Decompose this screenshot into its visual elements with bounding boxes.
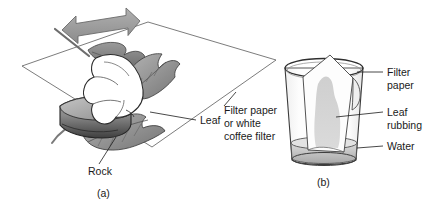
panel-a: Leaf Rock Filter paper or white coffee f… [22,8,278,199]
label-filter-paper-line1: Filter paper [224,104,278,116]
panel-b: Filter paper Leaf rubbing Water (b) [285,55,422,188]
label-filter-paper-line2: or white [224,117,261,129]
label-leaf-rubbing-line1: Leaf [387,106,408,118]
label-leaf-rubbing-line2: rubbing [387,119,422,131]
caption-a: (a) [97,187,110,199]
label-leaf: Leaf [200,114,221,126]
leader-water [357,146,383,148]
illustration-svg: Leaf Rock Filter paper or white coffee f… [0,0,443,203]
label-rock: Rock [88,165,113,177]
label-water: Water [387,140,415,152]
label-filter-paper-line3: coffee filter [224,130,276,142]
caption-b: (b) [317,176,330,188]
label-filter-b-line1: Filter [387,66,411,78]
leader-water-line [357,146,383,148]
label-filter-b-line2: paper [387,79,414,91]
figure-root: Leaf Rock Filter paper or white coffee f… [0,0,443,203]
